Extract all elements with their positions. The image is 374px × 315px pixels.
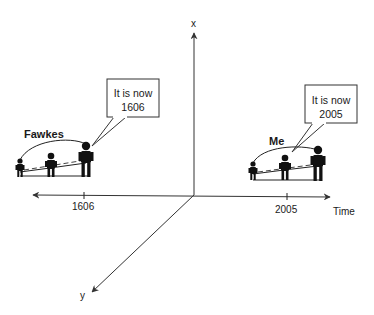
y-axis <box>92 195 194 292</box>
y-axis-label: y <box>80 290 85 301</box>
tick-label-1606: 1606 <box>72 201 95 212</box>
me-name-label: Me <box>269 135 284 147</box>
x-axis-label: x <box>191 18 196 29</box>
fawkes-group: Fawkes It is now 1606 <box>16 79 160 177</box>
me-group: Me It is now 2005 <box>249 85 358 181</box>
fawkes-bubble-line2: 1606 <box>121 101 145 113</box>
me-bubble-line1: It is now <box>312 94 351 106</box>
tick-label-2005: 2005 <box>275 204 298 215</box>
time-axis-label: Time <box>333 206 355 217</box>
fawkes-figure-large-icon <box>79 142 94 177</box>
spacetime-diagram: x Time y 1606 2005 Fawkes It is now 1606 <box>0 0 374 315</box>
me-figure-medium-icon <box>279 155 291 180</box>
fawkes-bubble-line1: It is now <box>114 87 153 99</box>
fawkes-name-label: Fawkes <box>24 128 64 140</box>
me-figure-large-icon <box>311 146 326 181</box>
me-figure-small-icon <box>249 161 258 180</box>
fawkes-bubble-tail <box>92 117 126 146</box>
me-bubble-line2: 2005 <box>319 108 343 120</box>
time-axis <box>33 195 330 197</box>
fawkes-figure-small-icon <box>16 158 25 177</box>
fawkes-figure-medium-icon <box>45 153 57 177</box>
